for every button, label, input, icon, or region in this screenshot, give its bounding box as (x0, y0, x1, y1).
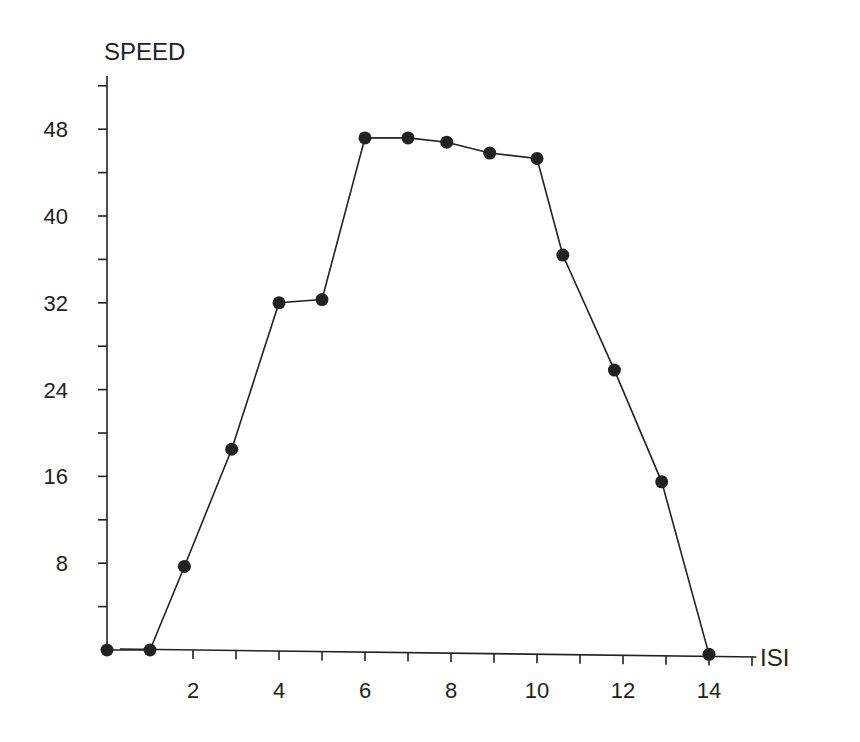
speed-vs-isi-chart: 81624324048 2468101214 SPEED ISI (0, 0, 860, 742)
data-point (703, 648, 716, 661)
data-point (556, 249, 569, 262)
data-point (483, 147, 496, 160)
data-point (225, 443, 238, 456)
data-point (144, 644, 157, 657)
y-tick-label: 24 (44, 378, 68, 403)
data-point (608, 364, 621, 377)
data-point (402, 131, 415, 144)
x-tick-label: 12 (611, 678, 635, 703)
x-axis-label: ISI (760, 644, 789, 671)
y-axis-label: SPEED (104, 38, 185, 65)
x-tick-label: 10 (525, 678, 549, 703)
x-tick-label: 6 (359, 678, 371, 703)
x-tick-label: 4 (273, 678, 285, 703)
data-point (655, 475, 668, 488)
x-tick-label: 2 (187, 678, 199, 703)
x-tick-label: 8 (445, 678, 457, 703)
y-tick-label: 40 (44, 204, 68, 229)
data-point (440, 136, 453, 149)
data-point (359, 131, 372, 144)
data-point (316, 293, 329, 306)
series-line (107, 138, 709, 654)
y-axis: 81624324048 (44, 76, 107, 650)
y-tick-label: 8 (56, 551, 68, 576)
data-point (178, 560, 191, 573)
y-tick-label: 16 (44, 464, 68, 489)
x-axis: 2468101214 (120, 649, 756, 703)
y-tick-label: 32 (44, 291, 68, 316)
y-tick-label: 48 (44, 117, 68, 142)
data-point (531, 152, 544, 165)
data-series (101, 131, 716, 660)
data-point (101, 644, 114, 657)
data-point (273, 296, 286, 309)
x-tick-label: 14 (697, 678, 721, 703)
